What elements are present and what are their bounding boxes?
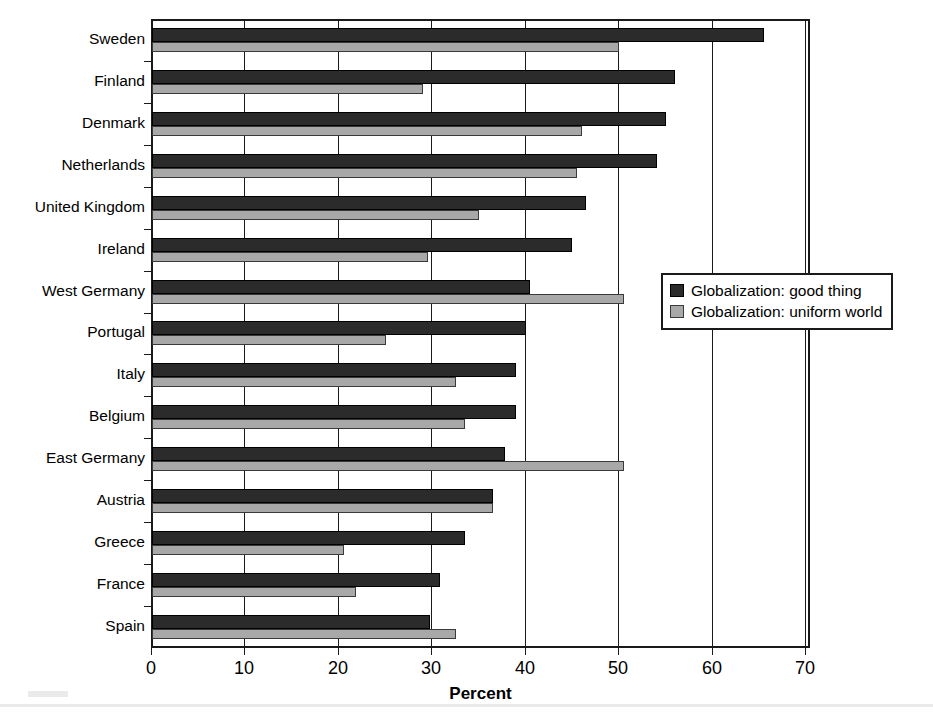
x-tick-70 — [805, 648, 806, 655]
category-label: Sweden — [5, 31, 145, 47]
category-label: United Kingdom — [5, 199, 145, 215]
category-tick — [144, 522, 151, 523]
x-tick-label-30: 30 — [401, 657, 461, 679]
horizontal-bar-chart: SwedenFinlandDenmarkNetherlandsUnited Ki… — [0, 0, 933, 715]
bar-good-thing — [152, 280, 530, 294]
category-tick — [144, 145, 151, 146]
bar-uniform-world — [152, 252, 428, 262]
x-tick-60 — [712, 648, 713, 655]
category-label: Netherlands — [5, 157, 145, 173]
x-tick-label-70: 70 — [775, 657, 835, 679]
legend: Globalization: good thing Globalization:… — [661, 273, 893, 330]
category-tick — [144, 313, 151, 314]
bar-uniform-world — [152, 629, 456, 639]
bar-good-thing — [152, 405, 516, 419]
x-tick-label-50: 50 — [588, 657, 648, 679]
bar-uniform-world — [152, 545, 344, 555]
bar-uniform-world — [152, 419, 465, 429]
bar-uniform-world — [152, 84, 423, 94]
bar-uniform-world — [152, 503, 493, 513]
category-label: Finland — [5, 73, 145, 89]
bar-good-thing — [152, 573, 440, 587]
x-tick-0 — [151, 648, 152, 655]
category-label: Portugal — [5, 324, 145, 340]
category-tick — [144, 61, 151, 62]
scan-artifact — [0, 704, 933, 707]
x-tick-30 — [431, 648, 432, 655]
bar-good-thing — [152, 238, 572, 252]
bar-good-thing — [152, 28, 764, 42]
bar-good-thing — [152, 112, 666, 126]
category-tick — [144, 271, 151, 272]
category-tick — [144, 480, 151, 481]
x-tick-50 — [618, 648, 619, 655]
bar-uniform-world — [152, 42, 619, 52]
x-tick-10 — [244, 648, 245, 655]
category-label: Denmark — [5, 115, 145, 131]
category-tick — [144, 438, 151, 439]
x-tick-label-0: 0 — [121, 657, 181, 679]
x-axis-title: Percent — [151, 684, 810, 704]
legend-label-uniform-world: Globalization: uniform world — [691, 303, 882, 321]
bar-uniform-world — [152, 168, 577, 178]
category-axis-labels: SwedenFinlandDenmarkNetherlandsUnited Ki… — [0, 0, 145, 715]
bar-good-thing — [152, 363, 516, 377]
category-label: France — [5, 576, 145, 592]
x-tick-40 — [525, 648, 526, 655]
bar-uniform-world — [152, 377, 456, 387]
x-tick-label-40: 40 — [495, 657, 555, 679]
legend-swatch-good-thing — [670, 284, 684, 297]
x-tick-20 — [338, 648, 339, 655]
scan-artifact — [28, 691, 68, 697]
bar-uniform-world — [152, 461, 624, 471]
category-tick — [144, 187, 151, 188]
gridline-60 — [712, 19, 713, 648]
legend-item-uniform-world: Globalization: uniform world — [670, 301, 882, 322]
bar-uniform-world — [152, 126, 582, 136]
category-tick — [144, 103, 151, 104]
bar-good-thing — [152, 70, 675, 84]
x-tick-label-60: 60 — [682, 657, 742, 679]
category-label: Italy — [5, 366, 145, 382]
category-label: East Germany — [5, 450, 145, 466]
category-tick — [144, 229, 151, 230]
gridline-70 — [805, 19, 806, 648]
category-label: Greece — [5, 534, 145, 550]
bar-good-thing — [152, 154, 657, 168]
x-tick-label-10: 10 — [214, 657, 274, 679]
x-tick-label-20: 20 — [308, 657, 368, 679]
bar-good-thing — [152, 321, 526, 335]
bar-good-thing — [152, 447, 505, 461]
category-tick — [144, 564, 151, 565]
category-tick — [144, 606, 151, 607]
category-label: Ireland — [5, 241, 145, 257]
legend-item-good-thing: Globalization: good thing — [670, 280, 882, 301]
bar-uniform-world — [152, 294, 624, 304]
category-label: Austria — [5, 492, 145, 508]
bar-good-thing — [152, 615, 430, 629]
category-tick — [144, 396, 151, 397]
bar-uniform-world — [152, 335, 386, 345]
bar-uniform-world — [152, 587, 356, 597]
legend-label-good-thing: Globalization: good thing — [691, 282, 862, 300]
category-label: West Germany — [5, 283, 145, 299]
category-tick — [144, 354, 151, 355]
bar-good-thing — [152, 196, 586, 210]
category-label: Spain — [5, 618, 145, 634]
category-label: Belgium — [5, 408, 145, 424]
bar-good-thing — [152, 531, 465, 545]
bar-uniform-world — [152, 210, 479, 220]
bar-good-thing — [152, 489, 493, 503]
legend-swatch-uniform-world — [670, 305, 684, 318]
